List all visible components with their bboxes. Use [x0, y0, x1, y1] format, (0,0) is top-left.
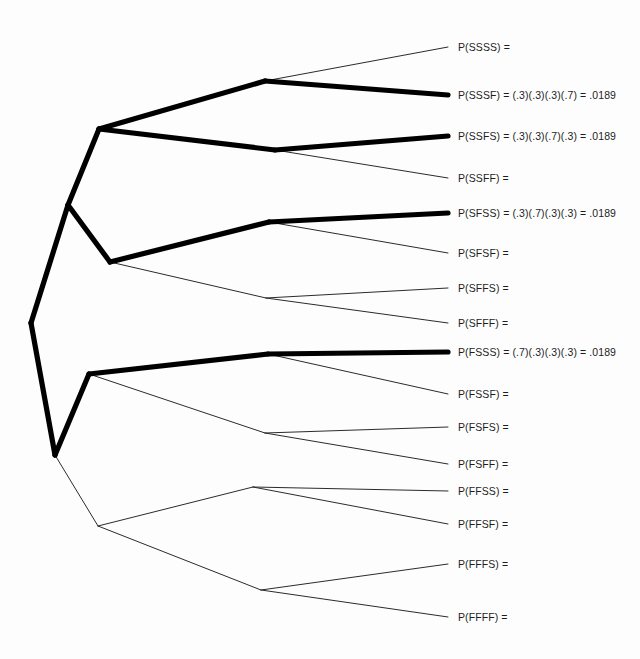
- leaf-label-ffss: P(FFSS) =: [458, 486, 509, 497]
- leaf-label-fsfs: P(FSFS) =: [458, 422, 509, 433]
- leaf-label-ssff: P(SSFF) =: [458, 173, 509, 184]
- leaf-label-sfff: P(SFFF) =: [458, 318, 508, 329]
- leaf-label-ffsf: P(FFSF) =: [458, 519, 508, 530]
- probability-tree-diagram: P(SSSS) =P(SSSF) = (.3)(.3)(.3)(.7) = .0…: [0, 0, 640, 659]
- leaf-label-ffff: P(FFFF) =: [458, 612, 508, 623]
- leaf-label-group: P(SSSS) =P(SSSF) = (.3)(.3)(.3)(.7) = .0…: [0, 0, 640, 659]
- leaf-label-fffs: P(FFFS) =: [458, 559, 508, 570]
- leaf-label-ssss: P(SSSS) =: [458, 42, 510, 53]
- leaf-label-sffs: P(SFFS) =: [458, 283, 509, 294]
- leaf-label-sssf: P(SSSF) = (.3)(.3)(.3)(.7) = .0189: [458, 90, 616, 101]
- leaf-label-fsss: P(FSSS) = (.7)(.3)(.3)(.3) = .0189: [458, 347, 616, 358]
- leaf-label-sfsf: P(SFSF) =: [458, 248, 509, 259]
- leaf-label-fssf: P(FSSF) =: [458, 389, 509, 400]
- leaf-label-sfss: P(SFSS) = (.3)(.7)(.3)(.3) = .0189: [458, 208, 616, 219]
- leaf-label-fsff: P(FSFF) =: [458, 459, 508, 470]
- leaf-label-ssfs: P(SSFS) = (.3)(.3)(.7)(.3) = .0189: [458, 131, 616, 142]
